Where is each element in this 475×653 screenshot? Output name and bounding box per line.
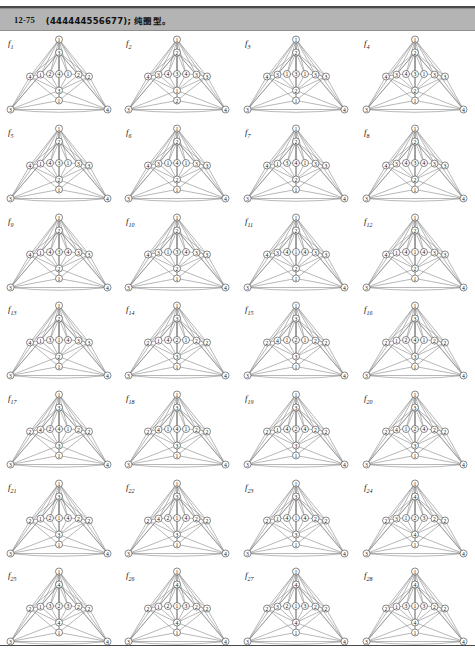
svg-text:4: 4 bbox=[224, 196, 227, 202]
graph-drawing: 1221344143133 bbox=[0, 118, 118, 206]
svg-text:4: 4 bbox=[266, 252, 269, 258]
svg-text:3: 3 bbox=[246, 373, 249, 379]
svg-text:3: 3 bbox=[58, 532, 61, 538]
svg-text:4: 4 bbox=[385, 74, 388, 80]
svg-text:3: 3 bbox=[295, 354, 298, 360]
svg-text:4: 4 bbox=[106, 639, 109, 645]
figure-cell: f201331342412422 bbox=[356, 384, 474, 472]
svg-text:3: 3 bbox=[67, 603, 70, 609]
svg-text:4: 4 bbox=[462, 285, 465, 291]
svg-text:2: 2 bbox=[58, 139, 61, 145]
svg-text:1: 1 bbox=[295, 276, 298, 282]
svg-text:2: 2 bbox=[414, 228, 417, 234]
svg-text:3: 3 bbox=[276, 604, 279, 610]
graph-drawing: 1441342321322 bbox=[237, 561, 355, 649]
svg-text:3: 3 bbox=[414, 316, 417, 322]
svg-text:1: 1 bbox=[295, 37, 298, 43]
svg-text:4: 4 bbox=[157, 427, 160, 433]
svg-text:1: 1 bbox=[414, 569, 417, 575]
svg-text:4: 4 bbox=[106, 551, 109, 557]
svg-text:4: 4 bbox=[67, 337, 70, 343]
svg-text:1: 1 bbox=[295, 187, 298, 193]
svg-text:2: 2 bbox=[58, 316, 61, 322]
svg-text:3: 3 bbox=[444, 252, 447, 258]
svg-text:3: 3 bbox=[9, 373, 12, 379]
svg-text:1: 1 bbox=[423, 71, 426, 77]
graph-drawing: 1331342124122 bbox=[356, 295, 474, 383]
svg-text:3: 3 bbox=[127, 285, 130, 291]
svg-text:4: 4 bbox=[414, 582, 417, 588]
svg-text:4: 4 bbox=[405, 71, 408, 77]
graph-drawing: 1221344314133 bbox=[118, 118, 236, 206]
graph-drawing: 1221344341433 bbox=[237, 207, 355, 295]
svg-text:2: 2 bbox=[414, 177, 417, 183]
svg-text:3: 3 bbox=[157, 250, 160, 256]
svg-text:1: 1 bbox=[295, 481, 298, 487]
svg-text:4: 4 bbox=[286, 426, 289, 432]
figure-cell: f111221344341433 bbox=[237, 207, 355, 295]
svg-text:1: 1 bbox=[295, 303, 298, 309]
svg-text:1: 1 bbox=[67, 71, 70, 77]
graph-drawing: 1331344124122 bbox=[0, 29, 118, 117]
svg-text:3: 3 bbox=[433, 161, 436, 167]
svg-text:2: 2 bbox=[385, 606, 388, 612]
svg-text:3: 3 bbox=[206, 74, 209, 80]
svg-text:3: 3 bbox=[9, 462, 12, 468]
svg-text:1: 1 bbox=[58, 215, 61, 221]
svg-text:4: 4 bbox=[343, 107, 346, 113]
svg-text:4: 4 bbox=[295, 582, 298, 588]
svg-text:2: 2 bbox=[176, 98, 179, 104]
svg-text:1: 1 bbox=[295, 603, 298, 609]
svg-text:1: 1 bbox=[39, 72, 42, 78]
svg-text:2: 2 bbox=[405, 337, 408, 343]
figure-cell: f51221344143133 bbox=[0, 118, 118, 206]
svg-text:4: 4 bbox=[414, 620, 417, 626]
svg-text:1: 1 bbox=[295, 249, 298, 255]
svg-text:1: 1 bbox=[414, 542, 417, 548]
svg-text:2: 2 bbox=[385, 518, 388, 524]
svg-text:4: 4 bbox=[224, 373, 227, 379]
svg-text:3: 3 bbox=[365, 285, 368, 291]
svg-text:1: 1 bbox=[414, 630, 417, 636]
svg-text:2: 2 bbox=[49, 515, 52, 521]
svg-text:3: 3 bbox=[127, 462, 130, 468]
svg-text:2: 2 bbox=[325, 340, 328, 346]
svg-text:3: 3 bbox=[295, 405, 298, 411]
svg-text:4: 4 bbox=[385, 252, 388, 258]
svg-text:3: 3 bbox=[127, 107, 130, 113]
figure-cell: f61221344314133 bbox=[118, 118, 236, 206]
graph-drawing: 1331342414122 bbox=[118, 384, 236, 472]
svg-text:3: 3 bbox=[395, 516, 398, 522]
svg-text:1: 1 bbox=[295, 215, 298, 221]
svg-text:3: 3 bbox=[325, 163, 328, 169]
svg-text:4: 4 bbox=[286, 515, 289, 521]
figure-cell: f251441342132322 bbox=[0, 561, 118, 649]
svg-text:3: 3 bbox=[127, 196, 130, 202]
svg-text:1: 1 bbox=[176, 126, 179, 132]
figure-cell: f161331342124122 bbox=[356, 295, 474, 383]
svg-text:1: 1 bbox=[176, 215, 179, 221]
svg-text:1: 1 bbox=[176, 364, 179, 370]
svg-text:2: 2 bbox=[88, 518, 91, 524]
svg-text:3: 3 bbox=[314, 250, 317, 256]
svg-text:2: 2 bbox=[314, 604, 317, 610]
svg-text:3: 3 bbox=[185, 603, 188, 609]
svg-text:1: 1 bbox=[405, 426, 408, 432]
svg-text:1: 1 bbox=[39, 604, 42, 610]
svg-text:1: 1 bbox=[58, 481, 61, 487]
svg-text:2: 2 bbox=[444, 429, 447, 435]
graph-drawing: 1331342412122 bbox=[237, 295, 355, 383]
figure-cell: f31221344313133 bbox=[237, 29, 355, 117]
svg-text:2: 2 bbox=[385, 429, 388, 435]
svg-text:1: 1 bbox=[295, 98, 298, 104]
svg-text:3: 3 bbox=[176, 316, 179, 322]
svg-text:2: 2 bbox=[414, 50, 417, 56]
graph-drawing: 1331342424122 bbox=[0, 384, 118, 472]
svg-text:2: 2 bbox=[29, 429, 32, 435]
svg-text:2: 2 bbox=[206, 340, 209, 346]
svg-text:1: 1 bbox=[414, 215, 417, 221]
svg-text:1: 1 bbox=[276, 161, 279, 167]
svg-text:4: 4 bbox=[157, 516, 160, 522]
svg-text:1: 1 bbox=[414, 364, 417, 370]
svg-text:2: 2 bbox=[88, 606, 91, 612]
